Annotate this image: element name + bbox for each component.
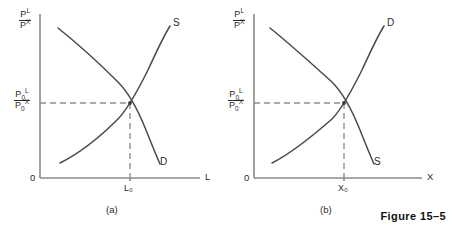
panel-a-upward-curve — [60, 26, 170, 163]
panel-a-equilibrium-point — [128, 101, 132, 105]
panel-a-x-tick-label: L₀ — [124, 184, 133, 193]
panel-b-downward-curve — [270, 28, 374, 164]
figure-number-label: Figure 15–5 — [380, 210, 446, 222]
panel-b-y-axis-denominator: PX — [233, 20, 245, 31]
panel-b-equilibrium-point — [342, 101, 346, 105]
panel-a-y-tick-label: P0L P0X — [14, 90, 30, 111]
panel-a-x-axis-label: L — [205, 172, 210, 182]
panel-b-y-tick-label: P0L P0X — [228, 90, 244, 111]
panel-a-y-axis-denominator: PX — [19, 20, 31, 31]
panel-b: PL PX P0L P0X 0 X X₀ D S (b) — [226, 0, 452, 230]
panel-a-y-tick-denominator: P0X — [14, 100, 30, 111]
panel-a-caption: (a) — [106, 204, 118, 215]
panel-b-x-tick-label: X₀ — [338, 184, 348, 193]
panel-b-downward-curve-label: S — [374, 157, 381, 167]
panel-a-upward-curve-label: S — [173, 18, 180, 28]
figure-container: PL PX P0L P0X 0 L L₀ S D (a) — [0, 0, 452, 230]
panel-b-x-axis-label: X — [427, 172, 433, 182]
panel-a-origin-label: 0 — [30, 173, 35, 183]
panel-a-downward-curve-label: D — [160, 157, 167, 167]
panel-b-y-tick-denominator: P0X — [228, 100, 244, 111]
panel-a: PL PX P0L P0X 0 L L₀ S D (a) — [0, 0, 226, 230]
panel-b-caption: (b) — [320, 204, 332, 215]
panel-b-upward-curve-label: D — [387, 18, 394, 28]
panel-b-origin-label: 0 — [244, 173, 249, 183]
panel-b-upward-curve — [272, 26, 384, 163]
panel-a-y-axis-label: PL PX — [19, 10, 31, 31]
panel-a-downward-curve — [58, 28, 160, 164]
panel-b-y-axis-label: PL PX — [233, 10, 245, 31]
panel-a-plot — [0, 0, 226, 230]
panel-b-plot — [226, 0, 452, 230]
